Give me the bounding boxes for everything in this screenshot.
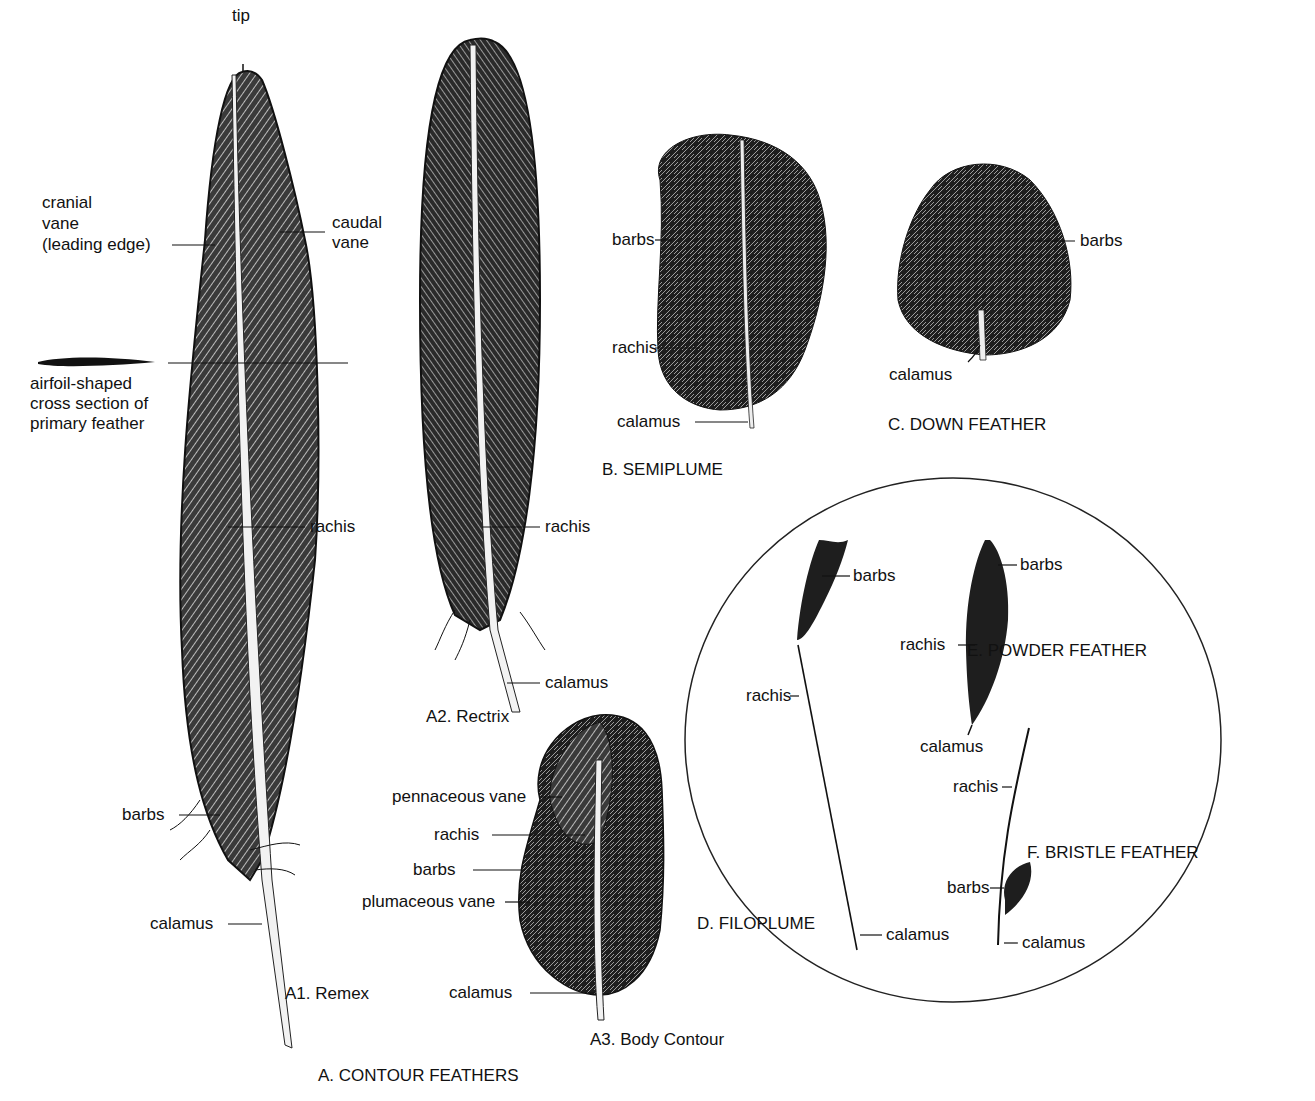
label-semiplume-rachis: rachis: [612, 338, 657, 358]
title-a2-rectrix: A2. Rectrix: [426, 707, 509, 727]
title-a1-remex: A1. Remex: [285, 984, 369, 1004]
label-body-rachis: rachis: [434, 825, 479, 845]
label-remex-barbs: barbs: [122, 805, 165, 825]
title-c-down-feather: C. DOWN FEATHER: [888, 415, 1046, 435]
rectrix-feather: [420, 39, 545, 712]
label-rectrix-rachis: rachis: [545, 517, 590, 537]
label-tip: tip: [232, 6, 250, 26]
label-cranial-3: (leading edge): [42, 235, 151, 255]
label-filoplume-calamus: calamus: [886, 925, 949, 945]
title-f-bristle-feather: F. BRISTLE FEATHER: [1027, 843, 1199, 863]
label-semiplume-barbs: barbs: [612, 230, 655, 250]
label-filoplume-barbs: barbs: [853, 566, 896, 586]
title-a-contour-feathers: A. CONTOUR FEATHERS: [318, 1066, 519, 1086]
label-bristle-rachis: rachis: [953, 777, 998, 797]
title-e-powder-feather: E. POWDER FEATHER: [967, 641, 1147, 661]
body-contour-feather: [473, 715, 664, 1020]
label-semiplume-calamus: calamus: [617, 412, 680, 432]
label-bristle-calamus: calamus: [1022, 933, 1085, 953]
label-down-barbs: barbs: [1080, 231, 1123, 251]
semiplume-feather: [655, 134, 826, 428]
label-powder-barbs: barbs: [1020, 555, 1063, 575]
label-rectrix-calamus: calamus: [545, 673, 608, 693]
bristle-feather: [990, 728, 1031, 945]
title-b-semiplume: B. SEMIPLUME: [602, 460, 723, 480]
label-body-calamus: calamus: [449, 983, 512, 1003]
down-feather: [898, 164, 1075, 362]
label-bristle-barbs: barbs: [947, 878, 990, 898]
label-airfoil-2: cross section of: [30, 394, 148, 414]
label-body-barbs: barbs: [413, 860, 456, 880]
label-remex-calamus: calamus: [150, 914, 213, 934]
powder-feather: [958, 540, 1017, 735]
label-remex-rachis: rachis: [310, 517, 355, 537]
title-a3-body-contour: A3. Body Contour: [590, 1030, 724, 1050]
label-down-calamus: calamus: [889, 365, 952, 385]
label-caudal-2: vane: [332, 233, 369, 253]
label-filoplume-rachis: rachis: [746, 686, 791, 706]
label-powder-rachis: rachis: [900, 635, 945, 655]
title-d-filoplume: D. FILOPLUME: [697, 914, 815, 934]
label-caudal-1: caudal: [332, 213, 382, 233]
label-pennaceous-vane: pennaceous vane: [392, 787, 526, 807]
label-cranial-1: cranial: [42, 193, 92, 213]
label-airfoil-3: primary feather: [30, 414, 144, 434]
label-cranial-2: vane: [42, 214, 79, 234]
label-powder-calamus: calamus: [920, 737, 983, 757]
label-airfoil-1: airfoil-shaped: [30, 374, 132, 394]
label-plumaceous-vane: plumaceous vane: [362, 892, 495, 912]
feather-illustrations: [0, 0, 1315, 1101]
filoplume-feather: [790, 540, 882, 950]
